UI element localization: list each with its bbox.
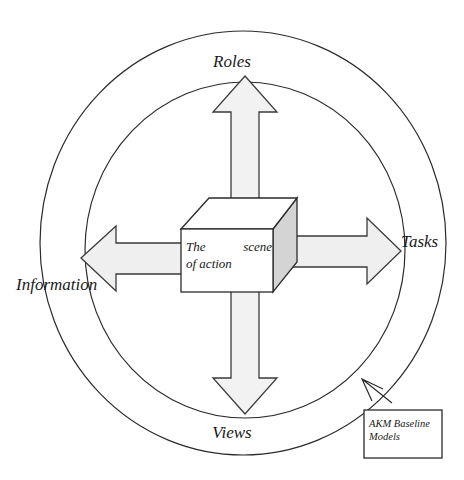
axis-label-roles: Roles bbox=[0, 53, 464, 70]
akm-baseline-models-caption: AKM Baseline Models bbox=[369, 417, 439, 443]
axis-label-tasks: Tasks bbox=[401, 233, 438, 250]
cube-caption: The scene of action bbox=[186, 238, 272, 272]
akm-note-line-2: Models bbox=[369, 431, 400, 442]
cube-caption-line-1: The scene bbox=[186, 238, 272, 255]
callout-pointer-icon bbox=[362, 379, 392, 403]
diagram-canvas: The scene of action Roles Tasks Views In… bbox=[0, 0, 464, 480]
cube-caption-line-2: of action bbox=[186, 255, 272, 272]
akm-note-line-1: AKM Baseline bbox=[369, 418, 430, 429]
arrow-down bbox=[213, 288, 277, 414]
axis-label-information: Information bbox=[16, 276, 97, 293]
arrow-left bbox=[81, 226, 196, 291]
